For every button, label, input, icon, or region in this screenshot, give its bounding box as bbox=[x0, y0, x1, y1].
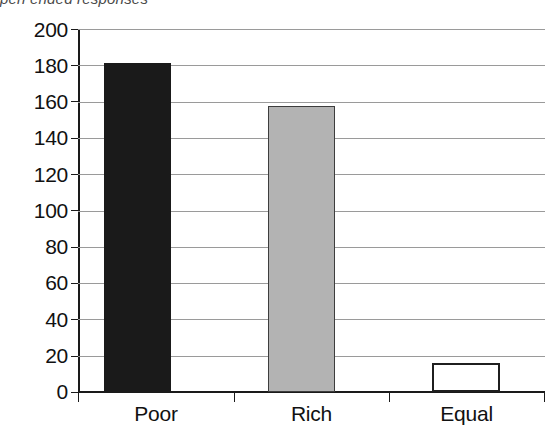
y-tick-label-160: 160 bbox=[6, 91, 68, 112]
x-tick-mark-1 bbox=[234, 393, 235, 402]
x-tick-mark-right bbox=[544, 393, 545, 402]
y-tick-label-60: 60 bbox=[6, 272, 68, 293]
x-axis-label-rich: Rich bbox=[234, 402, 389, 426]
y-tick-label-120: 120 bbox=[6, 164, 68, 185]
bar-equal[interactable] bbox=[432, 363, 500, 392]
chart-screenshot: pen ended responses 200 180 160 140 120 … bbox=[0, 0, 553, 429]
y-tick-label-80: 80 bbox=[6, 236, 68, 257]
bar-rich[interactable] bbox=[268, 106, 335, 392]
x-tick-mark-left bbox=[78, 393, 79, 402]
y-axis-tick-labels: 200 180 160 140 120 100 80 60 40 20 0 bbox=[0, 8, 68, 429]
x-axis-label-poor: Poor bbox=[78, 402, 234, 426]
y-tick-label-20: 20 bbox=[6, 345, 68, 366]
gridline-200 bbox=[78, 29, 545, 30]
y-tick-label-180: 180 bbox=[6, 55, 68, 76]
bar-poor[interactable] bbox=[104, 63, 171, 392]
y-tick-label-200: 200 bbox=[6, 19, 68, 40]
bar-chart: 200 180 160 140 120 100 80 60 40 20 0 bbox=[0, 8, 553, 429]
x-tick-mark-2 bbox=[389, 393, 390, 402]
plot-region bbox=[78, 29, 545, 392]
clipped-caption-text: pen ended responses bbox=[0, 0, 553, 8]
x-axis-label-equal: Equal bbox=[389, 402, 544, 426]
y-tick-label-140: 140 bbox=[6, 127, 68, 148]
y-tick-label-100: 100 bbox=[6, 200, 68, 221]
y-tick-label-0: 0 bbox=[6, 381, 68, 402]
y-tick-label-40: 40 bbox=[6, 309, 68, 330]
